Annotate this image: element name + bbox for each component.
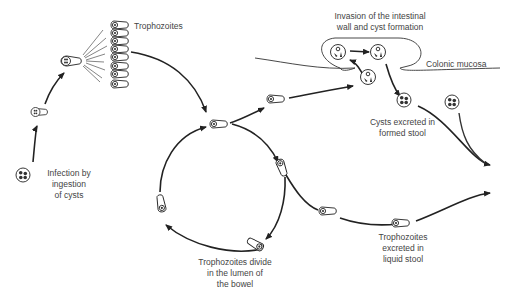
trophozoite-lumen-left — [156, 194, 167, 212]
label-infection: Infection by ingestion of cysts — [38, 168, 100, 201]
arrow-excyst-to-metacyst — [45, 73, 64, 104]
arrow-circle-right — [232, 124, 278, 162]
arrow-trophozoites-to-lumen — [131, 52, 206, 112]
arrow-liquid-path — [286, 175, 318, 210]
trophozoite-stack — [111, 21, 128, 88]
excysting-amoeba — [31, 108, 47, 117]
trophozoite-liquid-2 — [392, 219, 409, 227]
arrow-cysts-out-2 — [459, 113, 485, 163]
label-cysts-excreted: Cysts excreted in formed stool — [355, 117, 450, 139]
arrow-lumen-to-invasion-cell — [230, 108, 264, 123]
label-trophozoites: Trophozoites — [134, 21, 183, 32]
label-colonic-mucosa: Colonic mucosa — [426, 59, 486, 70]
arrow-liquid-path-2 — [340, 218, 398, 225]
label-invasion: Invasion of the intestinal wall and cyst… — [310, 11, 450, 33]
excystation-rays — [83, 30, 107, 82]
label-trophozoites-divide: Trophozoites divide in the lumen of the … — [180, 257, 290, 290]
invading-cell-1 — [331, 45, 346, 60]
trophozoite-lumen-top — [210, 120, 227, 128]
trophozoite-lumen-right — [275, 158, 288, 177]
excreted-cyst-1 — [397, 93, 411, 107]
arrow-to-invasion-wall — [289, 86, 353, 98]
excreted-cyst-2 — [445, 95, 459, 109]
arrow-infection-to-excyst — [33, 126, 37, 162]
ingested-cyst — [16, 168, 30, 182]
arrow-circle-down — [266, 177, 285, 239]
arrow-liquid-out — [416, 193, 490, 221]
label-trophozoites-excreted: Trophozoites excreted in liquid stool — [368, 232, 438, 265]
arrow-cyst-down — [386, 64, 400, 96]
invading-cell-2 — [371, 45, 386, 60]
trophozoite-liquid-1 — [319, 207, 336, 215]
trophozoite-to-wall — [267, 95, 284, 103]
invading-cell-3 — [361, 70, 376, 85]
metacystic-amoeba — [61, 56, 81, 66]
arrow-circle-bottom — [166, 225, 262, 251]
arrow-cyst-formation — [350, 51, 369, 52]
arrow-circle-up — [160, 127, 206, 192]
